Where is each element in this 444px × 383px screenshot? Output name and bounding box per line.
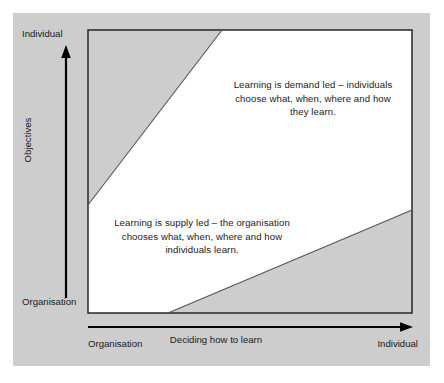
y-axis-top-label: Individual [22,28,63,39]
x-axis-title: Deciding how to learn [170,334,262,345]
x-axis-left-label: Organisation [88,338,142,349]
x-axis-right-label: Individual [377,338,418,349]
y-axis-title: Objectives [22,118,33,163]
diagram-canvas [0,0,444,383]
demand-led-description: Learning is demand led – individuals cho… [228,78,398,119]
learning-objectives-diagram: Learning is demand led – individuals cho… [0,0,444,383]
supply-led-description: Learning is supply led – the organisatio… [104,216,300,257]
x-axis-arrow-head [400,322,413,332]
y-axis-bottom-label: Organisation [22,296,76,307]
central-band-shape [88,30,412,313]
y-axis-arrow-head [61,45,71,58]
